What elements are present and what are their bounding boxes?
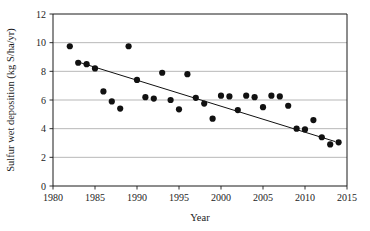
data-point — [75, 60, 81, 66]
data-point — [176, 106, 182, 112]
y-tick-label: 6 — [41, 95, 46, 106]
data-point — [218, 93, 224, 99]
x-tick-label: 1985 — [85, 192, 105, 203]
data-point — [92, 65, 98, 71]
data-point — [210, 116, 216, 122]
x-tick-label: 1995 — [169, 192, 189, 203]
data-point — [327, 141, 333, 147]
y-axis-tick-labels: 024681012 — [36, 9, 46, 192]
data-point — [336, 139, 342, 145]
data-point — [268, 93, 274, 99]
data-point — [142, 94, 148, 100]
x-tick-label: 2010 — [295, 192, 315, 203]
data-point — [294, 126, 300, 132]
x-tick-label: 2005 — [253, 192, 273, 203]
data-point — [109, 98, 115, 104]
data-point — [226, 93, 232, 99]
data-point — [260, 104, 266, 110]
data-point — [235, 107, 241, 113]
y-tick-label: 10 — [36, 37, 46, 48]
data-point — [151, 95, 157, 101]
data-point — [184, 71, 190, 77]
x-axis-ticks — [53, 186, 347, 190]
data-point — [126, 43, 132, 49]
data-point — [159, 70, 165, 76]
y-axis-ticks — [50, 14, 54, 186]
sulfur-deposition-figure: 024681012 198019851990199520002005201020… — [0, 0, 370, 231]
x-axis-label: Year — [190, 212, 210, 223]
y-tick-label: 0 — [41, 181, 46, 192]
data-point — [319, 134, 325, 140]
y-tick-label: 12 — [36, 9, 46, 20]
data-point — [168, 97, 174, 103]
y-tick-label: 8 — [41, 66, 46, 77]
x-tick-label: 1990 — [127, 192, 147, 203]
data-point — [67, 43, 73, 49]
y-axis-label: Sulfur wet deposition (kg S/ha/yr) — [5, 28, 17, 172]
scatter-chart: 024681012 198019851990199520002005201020… — [0, 0, 370, 231]
data-point — [84, 61, 90, 67]
data-point — [193, 95, 199, 101]
y-tick-label: 4 — [41, 123, 46, 134]
data-point — [243, 93, 249, 99]
x-tick-label: 2015 — [337, 192, 357, 203]
data-point — [302, 126, 308, 132]
data-point — [285, 103, 291, 109]
data-point — [252, 94, 258, 100]
x-tick-label: 1980 — [43, 192, 63, 203]
data-point — [201, 100, 207, 106]
data-point — [277, 93, 283, 99]
data-point — [117, 106, 123, 112]
data-point — [310, 117, 316, 123]
x-tick-label: 2000 — [211, 192, 231, 203]
data-point — [100, 88, 106, 94]
y-tick-label: 2 — [41, 152, 46, 163]
data-point — [134, 77, 140, 83]
x-axis-tick-labels: 19801985199019952000200520102015 — [43, 192, 357, 203]
